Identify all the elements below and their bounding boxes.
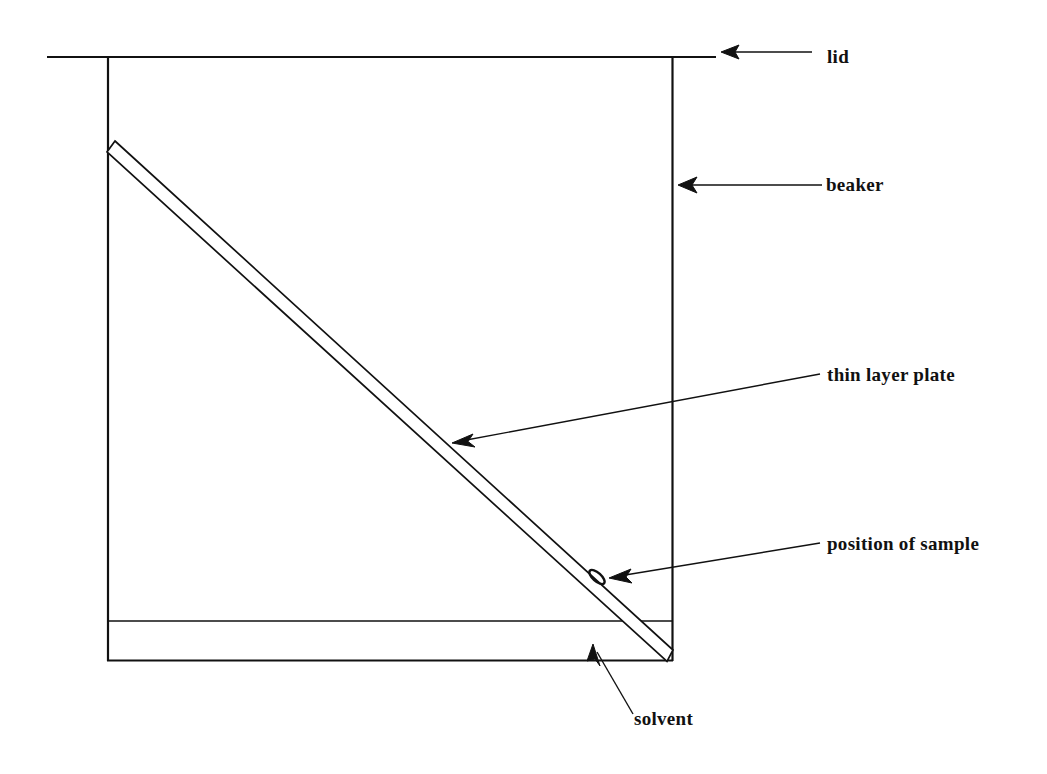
- beaker-callout-arrow: [678, 177, 822, 193]
- diagram-drawing: [0, 0, 1047, 774]
- tlc-diagram-canvas: lid beaker thin layer plate position of …: [0, 0, 1047, 774]
- label-beaker: beaker: [826, 175, 884, 194]
- label-position-of-sample: position of sample: [827, 534, 979, 553]
- solvent-callout-arrow: [587, 644, 633, 714]
- thin-layer-plate-callout-arrow: [452, 374, 820, 447]
- label-lid: lid: [827, 47, 849, 66]
- position-of-sample-callout-arrow: [609, 543, 820, 583]
- label-solvent: solvent: [634, 709, 693, 728]
- lid-callout-arrow: [721, 45, 812, 59]
- label-thin-layer-plate: thin layer plate: [827, 365, 955, 384]
- thin-layer-plate-shape: [107, 141, 673, 662]
